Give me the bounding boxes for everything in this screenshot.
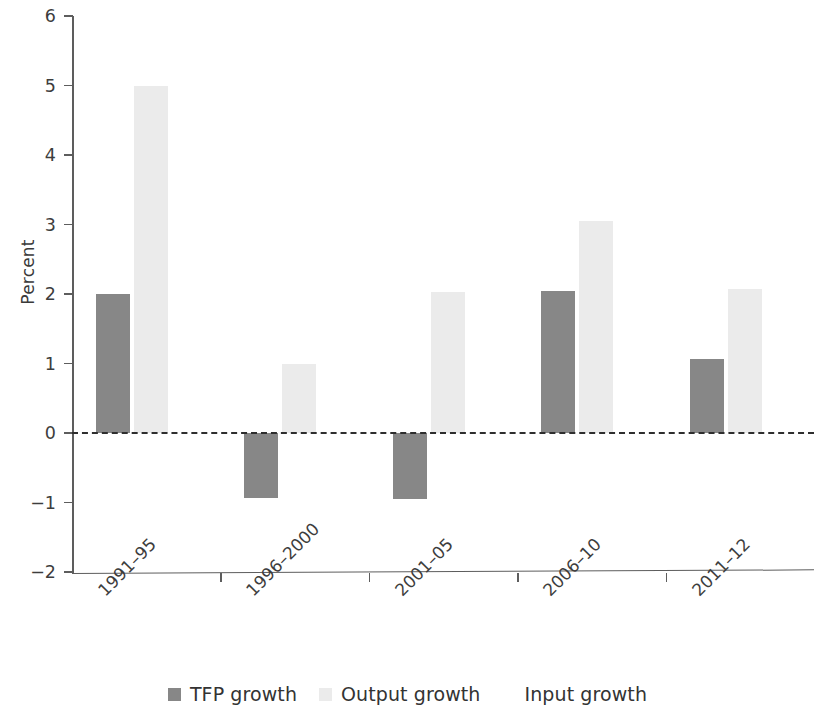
bar-tfp-growth-2011-12 (690, 359, 724, 433)
zero-reference-line (72, 432, 814, 434)
bar-output-growth-2001-05 (431, 292, 465, 433)
bar-output-growth-1996-2000 (282, 364, 316, 434)
y-axis-tick (64, 293, 73, 295)
bar-tfp-growth-1991-95 (96, 294, 130, 433)
legend-label: TFP growth (190, 683, 297, 705)
legend-item-tfp-growth[interactable]: TFP growth (168, 683, 297, 705)
x-axis-tick-label: 2001–05 (391, 534, 457, 600)
legend-swatch-icon (168, 688, 181, 701)
y-axis-tick (64, 363, 73, 365)
x-axis-tick-label: 2011–12 (688, 534, 754, 600)
bar-output-growth-2011-12 (728, 289, 762, 433)
chart-legend: TFP growthOutput growthInput growth (0, 683, 815, 705)
legend-item-input-growth[interactable]: Input growth (503, 683, 648, 705)
y-axis-tick-label: 6 (12, 6, 56, 26)
y-axis-tick-label: 0 (12, 423, 56, 443)
x-axis-separator (517, 573, 519, 582)
y-axis-tick-label: 1 (12, 354, 56, 374)
y-axis-tick (64, 502, 73, 504)
y-axis-tick (64, 15, 73, 17)
chart-figure: Percent 6543210−1−2 1991–951996–20002001… (0, 0, 815, 717)
y-axis-tick-label: 2 (12, 284, 56, 304)
bar-output-growth-2006-10 (579, 221, 613, 433)
y-axis-tick-label: 4 (12, 145, 56, 165)
y-axis-tick (64, 154, 73, 156)
legend-swatch-icon (319, 688, 332, 701)
y-axis-tick-label: −1 (12, 493, 56, 513)
y-axis-tick (64, 85, 73, 87)
bar-tfp-growth-2006-10 (541, 291, 575, 433)
bar-tfp-growth-2001-05 (393, 433, 427, 499)
bar-output-growth-1991-95 (134, 86, 168, 434)
legend-label: Output growth (341, 683, 480, 705)
x-axis-tick-label: 1991–95 (94, 534, 160, 600)
x-axis-separator (220, 573, 222, 582)
x-axis-tick-label: 2006–10 (539, 534, 605, 600)
y-axis-tick (64, 224, 73, 226)
x-axis-separator (369, 573, 371, 582)
legend-swatch-icon (503, 688, 516, 701)
y-axis-tick-label: 3 (12, 215, 56, 235)
x-axis-separator (666, 573, 668, 582)
legend-item-output-growth[interactable]: Output growth (319, 683, 480, 705)
y-axis-tick-label: −2 (12, 562, 56, 582)
bar-tfp-growth-1996-2000 (244, 433, 278, 498)
legend-label: Input growth (525, 683, 648, 705)
x-axis-tick-label: 1996–2000 (242, 519, 323, 600)
y-axis-tick-label: 5 (12, 76, 56, 96)
